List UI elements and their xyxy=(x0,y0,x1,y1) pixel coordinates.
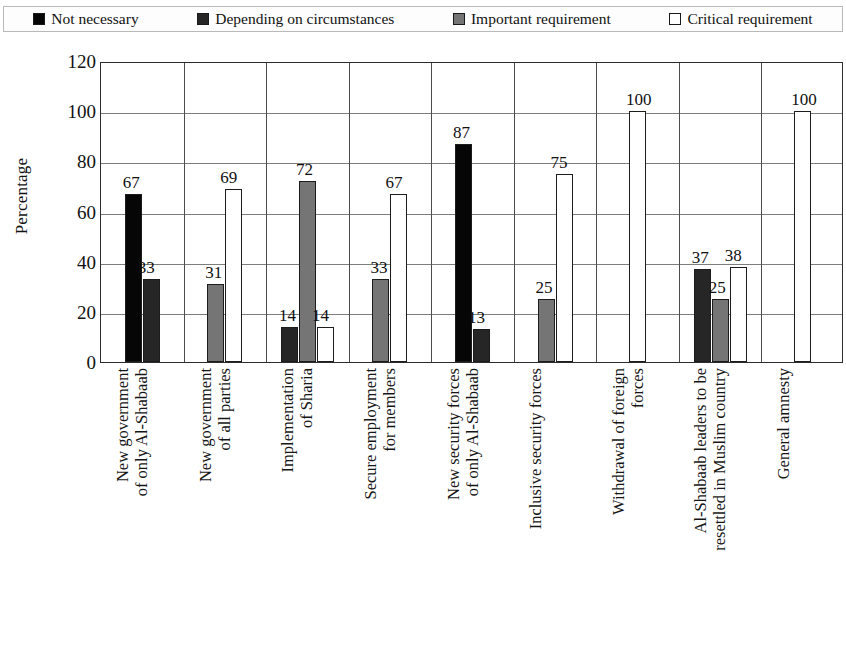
legend-swatch-icon xyxy=(453,13,465,25)
y-axis-ticks: 120100806040200 xyxy=(44,36,96,366)
legend-swatch-icon xyxy=(33,13,45,25)
bar-value-label: 87 xyxy=(453,124,470,141)
legend-swatch-icon xyxy=(197,13,209,25)
bar xyxy=(207,284,224,362)
category-separator-gridline xyxy=(679,63,680,362)
bar-group: 147214 xyxy=(281,63,334,362)
bar xyxy=(125,194,142,362)
bar-group: 100 xyxy=(629,63,646,362)
x-axis-category-label: Withdrawal of foreignforces xyxy=(609,368,665,648)
bar-group: 3169 xyxy=(207,63,242,362)
category-label-line: of only Al-Shabaab xyxy=(133,368,152,648)
bar xyxy=(629,111,646,362)
bar-value-label: 38 xyxy=(725,247,742,264)
bar-group: 8713 xyxy=(455,63,490,362)
bar xyxy=(794,111,811,362)
category-separator-gridline xyxy=(596,63,597,362)
category-label-line: Withdrawal of foreign xyxy=(609,368,628,515)
category-label-line: Secure employment xyxy=(361,368,380,500)
bar-group: 2575 xyxy=(538,63,573,362)
legend-label: Critical requirement xyxy=(687,10,812,28)
bar xyxy=(390,194,407,362)
bar-value-label: 25 xyxy=(709,279,726,296)
category-separator-gridline xyxy=(431,63,432,362)
x-axis-category-label: New governmentof only Al-Shabaab xyxy=(113,368,169,648)
bar xyxy=(712,299,729,362)
y-axis-tick-label: 0 xyxy=(44,352,96,374)
bar xyxy=(538,299,555,362)
bar xyxy=(455,144,472,362)
bar-value-label: 100 xyxy=(626,91,652,108)
bar xyxy=(730,267,747,362)
category-separator-gridline xyxy=(349,63,350,362)
x-axis-category-label: Secure employmentfor members xyxy=(361,368,417,648)
category-separator-gridline xyxy=(184,63,185,362)
y-axis-tick-label: 60 xyxy=(44,202,96,224)
x-axis-category-label: Inclusive security forces xyxy=(526,368,582,648)
category-label-line: resettled in Muslim country xyxy=(711,368,730,648)
category-label-line: forces xyxy=(628,368,647,648)
category-separator-gridline xyxy=(761,63,762,362)
bar-value-label: 33 xyxy=(370,259,387,276)
bar-group: 6733 xyxy=(125,63,160,362)
chart-legend: Not necessary Depending on circumstances… xyxy=(3,6,843,32)
y-axis-tick-label: 40 xyxy=(44,252,96,274)
legend-item-depending-on-circumstances: Depending on circumstances xyxy=(197,10,394,28)
bar-value-label: 14 xyxy=(312,307,329,324)
legend-label: Not necessary xyxy=(51,10,138,28)
bar xyxy=(372,279,389,362)
bar xyxy=(317,327,334,362)
legend-item-critical-requirement: Critical requirement xyxy=(669,10,812,28)
category-label-line: of Sharia xyxy=(298,368,317,648)
bar-group: 100 xyxy=(794,63,811,362)
category-separator-gridline xyxy=(514,63,515,362)
legend-item-important-requirement: Important requirement xyxy=(453,10,611,28)
category-label-line: for members xyxy=(380,368,399,648)
legend-swatch-icon xyxy=(669,13,681,25)
category-label-line: Implementation xyxy=(278,368,297,472)
bar-chart: Percentage 120100806040200 6733316914721… xyxy=(0,36,846,656)
bar xyxy=(556,174,573,362)
x-axis-category-label: New governmentof all parties xyxy=(196,368,252,648)
bar xyxy=(281,327,298,362)
y-axis-tick-label: 80 xyxy=(44,151,96,173)
bar-value-label: 33 xyxy=(138,259,155,276)
bar-value-label: 25 xyxy=(536,279,553,296)
category-label-line: of all parties xyxy=(215,368,234,648)
legend-label: Depending on circumstances xyxy=(215,10,394,28)
y-axis-title: Percentage xyxy=(12,86,32,306)
category-label-line: New government xyxy=(196,368,215,482)
x-axis-category-label: Implementationof Sharia xyxy=(278,368,334,648)
bar xyxy=(225,189,242,362)
bar-value-label: 13 xyxy=(468,309,485,326)
x-axis-category-labels: New governmentof only Al-ShabaabNew gove… xyxy=(100,368,843,657)
legend-item-not-necessary: Not necessary xyxy=(33,10,138,28)
bar-value-label: 67 xyxy=(385,174,402,191)
category-label-line: New government xyxy=(113,368,132,482)
bar-value-label: 69 xyxy=(220,169,237,186)
y-axis-tick-label: 20 xyxy=(44,302,96,324)
category-label-line: of only Al-Shabaab xyxy=(463,368,482,648)
bar-value-label: 67 xyxy=(123,174,140,191)
category-label-line: New security forces xyxy=(444,368,463,500)
bar-value-label: 100 xyxy=(791,91,817,108)
category-separator-gridline xyxy=(266,63,267,362)
bar-value-label: 14 xyxy=(279,307,296,324)
bar-group: 372538 xyxy=(694,63,747,362)
y-axis-tick-label: 120 xyxy=(44,51,96,73)
bar xyxy=(299,181,316,362)
category-label-line: Inclusive security forces xyxy=(526,368,545,529)
bar-value-label: 75 xyxy=(551,154,568,171)
category-label-line: Al-Shabaab leaders to be xyxy=(691,368,710,533)
y-axis-tick-label: 100 xyxy=(44,101,96,123)
bar-value-label: 37 xyxy=(692,249,709,266)
bar-group: 3367 xyxy=(372,63,407,362)
x-axis-category-label: General amnesty xyxy=(774,368,830,648)
bar xyxy=(143,279,160,362)
x-axis-category-label: New security forcesof only Al-Shabaab xyxy=(444,368,500,648)
bar xyxy=(473,329,490,362)
x-axis-category-label: Al-Shabaab leaders to beresettled in Mus… xyxy=(691,368,747,648)
legend-label: Important requirement xyxy=(471,10,611,28)
bar-value-label: 72 xyxy=(296,161,313,178)
category-label-line: General amnesty xyxy=(774,368,793,479)
